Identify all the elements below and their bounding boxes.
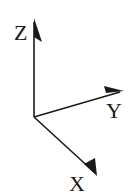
x-axis: X: [34, 117, 97, 195]
z-axis-label: Z: [14, 20, 27, 45]
y-axis: Y: [34, 86, 124, 123]
coordinate-axes-diagram: Z Y X: [0, 0, 138, 195]
z-axis-arrowhead-icon: [34, 18, 42, 42]
y-axis-label: Y: [106, 98, 122, 123]
z-axis: Z: [14, 18, 42, 117]
y-axis-arrowhead-icon: [104, 86, 124, 93]
x-axis-label: X: [69, 171, 85, 195]
x-axis-arrowhead-icon: [84, 158, 97, 176]
